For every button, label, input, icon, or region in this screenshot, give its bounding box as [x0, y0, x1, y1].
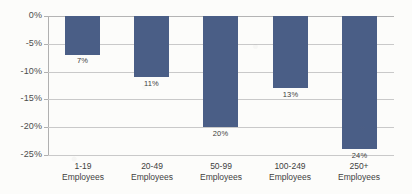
x-axis-category-label: 20-49 Employees — [117, 161, 187, 182]
category-line-1: 1-19 — [48, 161, 118, 172]
bar-20-49-employees — [134, 16, 169, 77]
x-axis-category-label: 100-249 Employees — [255, 161, 325, 182]
x-axis-category-label: 250+ Employees — [324, 161, 394, 182]
y-axis-tick-label: -15% — [0, 94, 42, 103]
bar-250-plus-employees — [342, 16, 377, 149]
bar-50-99-employees — [203, 16, 238, 127]
category-line-1: 250+ — [324, 161, 394, 172]
bar-data-label: 20% — [203, 129, 238, 138]
bar-data-label: 24% — [342, 151, 377, 160]
bar-data-label: 7% — [65, 56, 100, 65]
bar-chart: 0% -5% -10% -15% -20% -25% 7% 11% 20% 13… — [0, 0, 412, 194]
plot-area: 7% 11% 20% 13% 24% — [48, 16, 394, 155]
y-axis-tick-label: 0% — [0, 11, 42, 20]
y-axis-tick-label: -20% — [0, 122, 42, 131]
y-axis-tick-label: -10% — [0, 67, 42, 76]
category-line-2: Employees — [117, 172, 187, 183]
bar-1-19-employees — [65, 16, 100, 55]
category-line-1: 50-99 — [186, 161, 256, 172]
bar-100-249-employees — [273, 16, 308, 88]
category-line-2: Employees — [255, 172, 325, 183]
y-axis-tick-label: -25% — [0, 150, 42, 159]
x-axis-category-label: 50-99 Employees — [186, 161, 256, 182]
x-axis-category-label: 1-19 Employees — [48, 161, 118, 182]
category-line-2: Employees — [324, 172, 394, 183]
bar-data-label: 11% — [134, 79, 169, 88]
category-line-1: 20-49 — [117, 161, 187, 172]
category-line-1: 100-249 — [255, 161, 325, 172]
category-line-2: Employees — [186, 172, 256, 183]
y-axis-tick-label: -5% — [0, 39, 42, 48]
category-line-2: Employees — [48, 172, 118, 183]
bar-data-label: 13% — [273, 90, 308, 99]
